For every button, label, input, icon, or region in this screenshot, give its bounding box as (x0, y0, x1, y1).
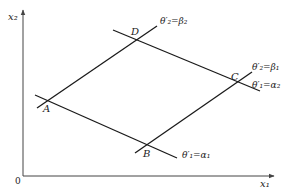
point-d-label: D (130, 26, 139, 37)
point-a-label: A (42, 103, 50, 114)
line-ab-label: θ′₁=α₁ (182, 150, 210, 160)
line-bc (135, 72, 252, 153)
point-b-label: B (142, 148, 150, 159)
line-bc-label: θ′₂=β₁ (252, 62, 279, 72)
parallelogram-diagram: x₂ x₁ 0 A B C D θ′₂=β₂ θ′₂=β₁ θ′₁=α₂ θ′₁… (0, 0, 287, 196)
point-c-label: C (231, 71, 239, 82)
line-dc-label: θ′₁=α₂ (252, 80, 281, 90)
line-ad (37, 26, 157, 108)
line-ad-label: θ′₂=β₂ (160, 16, 188, 26)
origin-label: 0 (15, 176, 21, 186)
line-ab (35, 95, 177, 158)
y-axis-label: x₂ (8, 11, 18, 22)
x-axis-label: x₁ (260, 178, 270, 189)
